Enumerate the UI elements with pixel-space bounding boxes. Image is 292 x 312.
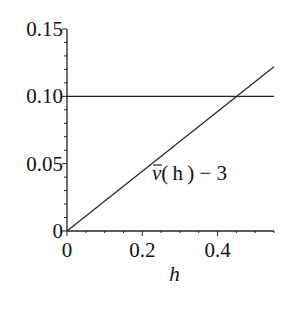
axes	[62, 29, 274, 236]
y-tick-label: 0.10	[26, 84, 63, 108]
vbar-minus-3-line	[67, 67, 274, 231]
y-tick-label: 0.05	[26, 152, 63, 176]
annotation-text: v( h ) − 3	[152, 161, 227, 185]
series-lines	[67, 67, 274, 231]
x-tick-label: 0.4	[204, 238, 231, 262]
x-tick-label: 0.2	[129, 238, 155, 262]
y-tick-label: 0.15	[26, 17, 63, 41]
curve-annotation: v( h ) − 3	[152, 161, 227, 185]
x-axis-label: h	[169, 262, 180, 286]
x-tick-label: 0	[62, 238, 73, 262]
tick-labels: 00.050.100.1500.20.4	[26, 17, 231, 262]
chart: 00.050.100.1500.20.4 h v( h ) − 3	[0, 0, 292, 312]
